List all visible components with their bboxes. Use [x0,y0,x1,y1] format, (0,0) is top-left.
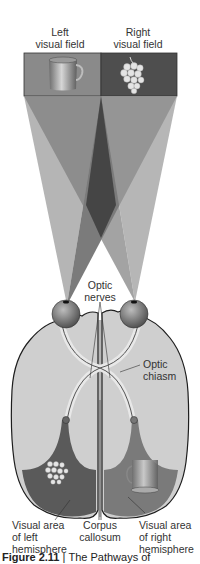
light-cones [24,96,177,305]
visual-field-panels [24,53,177,96]
label-line: of left [12,531,72,543]
label-line: chiasm [143,370,193,382]
label-line: Visual area [12,519,72,531]
label-line: Optic [80,279,120,291]
visual-area-right-label: Visual area of right hemisphere [139,519,199,555]
caption-text: The Pathways of [68,551,150,563]
right-eye [120,300,148,328]
figure-number: Figure 2.11 [2,551,59,563]
figure-caption: Figure 2.11 | The Pathways of [2,551,150,563]
optic-nerves-label: Optic nerves [80,279,120,303]
label-line: Corpus [76,519,124,531]
visual-area-left-label: Visual area of left hemisphere [12,519,72,555]
label-line: visual field [30,38,90,50]
label-line: of right [139,531,199,543]
label-line: Right [108,26,168,38]
label-line: Optic [143,358,193,370]
optic-chiasm-label: Optic chiasm [143,358,193,382]
label-line: Visual area [139,519,199,531]
right-visual-field-label: Right visual field [108,26,168,50]
label-line: nerves [80,291,120,303]
left-eye [52,300,80,328]
corpus-callosum-label: Corpus callosum [76,519,124,543]
label-line: callosum [76,531,124,543]
label-line: Left [30,26,90,38]
label-line: visual field [108,38,168,50]
caption-separator: | [63,551,66,563]
left-visual-field-label: Left visual field [30,26,90,50]
